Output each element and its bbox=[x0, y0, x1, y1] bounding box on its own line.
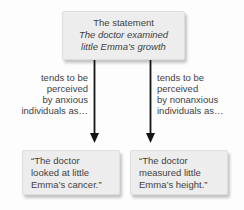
label-line: by anxious bbox=[21, 94, 88, 105]
label-line: tends to be bbox=[157, 72, 224, 83]
label-line: perceived bbox=[157, 83, 224, 94]
statement-text-line1: The doctor examined bbox=[63, 29, 184, 41]
quote-line: measured little bbox=[139, 167, 223, 179]
label-line: perceived bbox=[21, 83, 88, 94]
nonanxious-perception-label: tends to be perceived by nonanxious indi… bbox=[157, 72, 224, 116]
quote-line: “The doctor bbox=[31, 155, 115, 167]
quote-line: Emma’s height.” bbox=[139, 179, 223, 191]
label-line: by nonanxious bbox=[157, 94, 224, 105]
nonanxious-interpretation-box: “The doctor measured little Emma’s heigh… bbox=[130, 150, 228, 195]
label-line: individuals as… bbox=[21, 105, 88, 116]
left-down-arrow-icon bbox=[88, 60, 101, 144]
label-line: tends to be bbox=[21, 72, 88, 83]
quote-line: looked at little bbox=[31, 167, 115, 179]
right-arrow-head bbox=[146, 133, 155, 143]
label-line: individuals as… bbox=[157, 105, 224, 116]
statement-text-line2: little Emma’s growth bbox=[63, 41, 184, 53]
anxious-interpretation-box: “The doctor looked at little Emma’s canc… bbox=[22, 150, 120, 195]
left-arrow-head bbox=[90, 133, 99, 143]
statement-intro: The statement bbox=[63, 17, 184, 29]
quote-line: “The doctor bbox=[139, 155, 223, 167]
statement-box: The statement The doctor examined little… bbox=[62, 11, 185, 60]
right-down-arrow-icon bbox=[144, 60, 157, 144]
diagram-canvas: The statement The doctor examined little… bbox=[0, 0, 244, 210]
anxious-perception-label: tends to be perceived by anxious individ… bbox=[21, 72, 88, 116]
quote-line: Emma’s cancer.” bbox=[31, 179, 115, 191]
